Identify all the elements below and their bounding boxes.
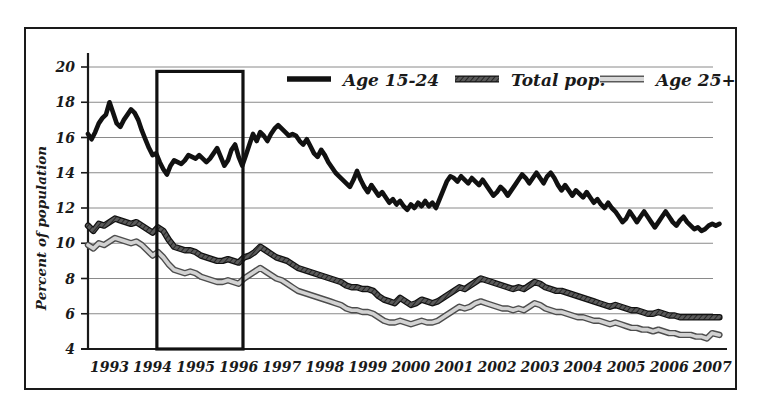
y-axis-tick-label: 6 [65,306,75,322]
x-axis-tick-label: 2001 [433,359,473,375]
y-axis-tick-label: 20 [55,59,76,75]
y-axis-tick-label: 10 [56,235,76,251]
x-axis-tick-label: 2003 [520,359,560,375]
y-axis-tick-label: 18 [56,94,76,110]
y-axis-tick-label: 8 [65,271,75,287]
x-axis-tick-label: 1995 [176,359,215,375]
chart-page: 468101214161820 199319941995199619971998… [0,0,761,417]
x-axis-tick-label: 1996 [219,359,258,375]
legend-label: Age 15-24 [341,70,439,90]
x-axis-tick-label: 2004 [563,359,603,375]
y-axis-tick-label: 12 [56,200,76,216]
x-axis-tick-label: 2007 [692,359,732,375]
x-axis-tick-label: 1997 [262,359,301,375]
y-axis-tick-label: 4 [65,341,75,357]
x-axis-tick-label: 2005 [606,359,646,375]
line-chart: 468101214161820 199319941995199619971998… [0,0,761,417]
y-axis-title: Percent of population [33,146,49,311]
series-line-total-pop [88,219,719,318]
x-axis-labels-group: 1993199419951996199719981999200020012002… [90,359,732,375]
y-axis-tick-label: 16 [56,130,76,146]
legend-label: Age 25+ [654,70,736,90]
y-axis-tick-label: 14 [56,165,75,181]
chart-legend: Age 15-24Total pop.Age 25+ [287,70,736,90]
legend-label: Total pop. [511,70,605,90]
y-axis-labels-group: 468101214161820 [55,59,76,357]
x-axis-tick-label: 1999 [348,359,387,375]
highlight-rectangle [157,71,243,349]
x-axis-tick-label: 1993 [90,359,129,375]
series-line-age-15-24 [88,102,719,231]
x-axis-tick-label: 2006 [649,359,689,375]
x-axis-tick-label: 1998 [305,359,344,375]
gridlines-group [88,67,713,314]
x-axis-tick-label: 2002 [476,359,516,375]
x-axis-tick-label: 1994 [133,359,172,375]
x-axis-tick-label: 2000 [390,359,430,375]
